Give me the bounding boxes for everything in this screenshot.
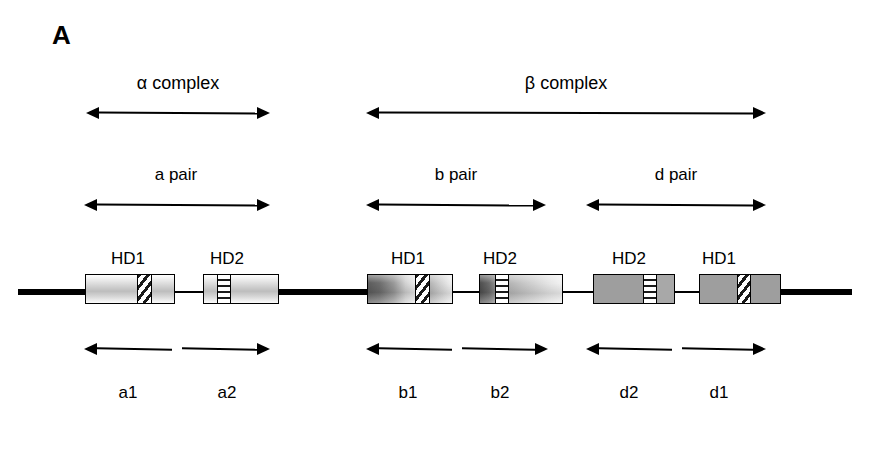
domain-segment-b-hd1-fill-0 (368, 275, 416, 303)
panel-letter: A (52, 22, 71, 48)
segment-arrow-d1 (586, 342, 672, 356)
domain-segment-d-hd2-fill-2 (657, 275, 675, 303)
domain-segment-b-hd2-fill-0 (480, 275, 496, 303)
domain-segment-d-hd1-hatch-1 (738, 275, 751, 303)
domain-box-a-hd1 (85, 274, 175, 304)
domain-segment-a-hd2-hatch-1 (218, 275, 231, 303)
domain-box-b-hd2 (479, 274, 563, 304)
domain-segment-b-hd1-hatch-1 (416, 275, 430, 303)
backbone-segment-thin-5 (674, 291, 700, 293)
figure-panel-a: A α complexβ complex a pairb paird pair … (0, 0, 872, 451)
domain-segment-b-hd1-fill-2 (430, 275, 453, 303)
domain-segment-b-hd2-hatch-1 (496, 275, 509, 303)
segment-arrow-d2 (682, 342, 766, 356)
pair-arrow-d (586, 198, 766, 212)
segment-arrow-a1 (84, 342, 172, 356)
pair-label-a: a pair (155, 166, 198, 183)
domain-segment-a-hd1-hatch-1 (138, 275, 152, 303)
domain-label-4: HD2 (612, 250, 646, 267)
segment-arrow-a2 (182, 342, 270, 356)
complex-label-beta: β complex (525, 74, 607, 92)
complex-label-alpha: α complex (137, 74, 219, 92)
backbone-segment-thick-2 (278, 289, 368, 295)
complex-arrow-beta (366, 106, 766, 120)
segment-label-d2: d2 (620, 384, 639, 401)
segment-arrow-b2 (462, 342, 548, 356)
backbone-segment-thin-4 (562, 291, 594, 293)
domain-box-d-hd1 (699, 274, 781, 304)
domain-segment-d-hd2-hatch-1 (644, 275, 657, 303)
domain-box-b-hd1 (367, 274, 453, 304)
complex-arrow-alpha (86, 106, 270, 120)
domain-segment-a-hd1-fill-0 (86, 275, 138, 303)
pair-arrow-b (366, 198, 546, 212)
backbone-segment-thin-3 (452, 291, 480, 293)
backbone-segment-thick-0 (18, 289, 86, 295)
domain-label-1: HD2 (210, 250, 244, 267)
pair-label-b: b pair (435, 166, 478, 183)
segment-label-a2: a2 (218, 384, 237, 401)
segment-label-b2: b2 (491, 384, 510, 401)
pair-arrow-a (84, 198, 270, 212)
domain-segment-d-hd1-fill-2 (751, 275, 781, 303)
domain-segment-d-hd1-fill-0 (700, 275, 738, 303)
domain-label-5: HD1 (702, 250, 736, 267)
pair-label-d: d pair (655, 166, 698, 183)
domain-segment-d-hd2-fill-0 (594, 275, 644, 303)
domain-box-a-hd2 (203, 274, 279, 304)
segment-label-b1: b1 (399, 384, 418, 401)
backbone-segment-thin-1 (174, 291, 204, 293)
domain-label-0: HD1 (111, 250, 145, 267)
segment-label-a1: a1 (119, 384, 138, 401)
domain-label-2: HD1 (391, 250, 425, 267)
segment-label-d1: d1 (710, 384, 729, 401)
domain-segment-b-hd2-fill-2 (509, 275, 563, 303)
domain-segment-a-hd2-fill-2 (231, 275, 279, 303)
domain-label-3: HD2 (483, 250, 517, 267)
segment-arrow-b1 (366, 342, 452, 356)
domain-box-d-hd2 (593, 274, 675, 304)
domain-segment-a-hd2-fill-0 (204, 275, 218, 303)
domain-segment-a-hd1-fill-2 (152, 275, 175, 303)
